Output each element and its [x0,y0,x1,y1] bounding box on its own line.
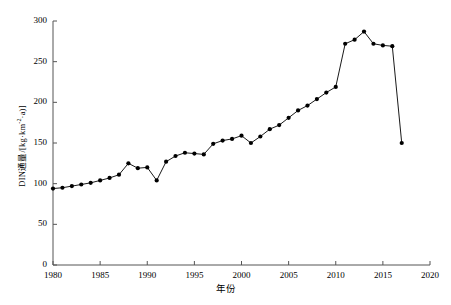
data-point [202,152,206,156]
data-point [305,103,309,107]
y-tick-label: 0 [43,259,48,269]
x-tick-label: 1985 [80,270,120,280]
data-point [287,116,291,120]
x-tick-label: 1980 [33,270,73,280]
data-point [70,184,74,188]
data-point [315,97,319,101]
data-point [353,38,357,42]
data-point [192,151,196,155]
data-point [249,141,253,145]
x-tick-label: 2015 [363,270,403,280]
y-tick-label: 150 [34,137,48,147]
data-point [126,161,130,165]
data-point [221,138,225,142]
data-point [381,43,385,47]
y-tick-label: 250 [34,56,48,66]
data-point [343,42,347,46]
y-tick-label: 300 [34,15,48,25]
data-point [324,90,328,94]
chart-svg [0,0,451,305]
data-point [107,176,111,180]
data-point [98,178,102,182]
x-tick-label: 1995 [174,270,214,280]
x-tick-label: 2000 [222,270,262,280]
data-point [400,141,404,145]
data-point [334,85,338,89]
data-point [390,44,394,48]
data-point [230,137,234,141]
y-axis-ticks [53,21,57,265]
chart-figure: DIN通量/[kg·km-2·a)] 年份 050100150200250300… [0,0,451,305]
axes-frame [53,21,430,265]
data-point [239,134,243,138]
x-tick-label: 2010 [316,270,356,280]
data-point [296,108,300,112]
data-point [136,166,140,170]
data-point [155,178,159,182]
x-axis-ticks [53,261,430,265]
x-tick-label: 2005 [269,270,309,280]
data-point [164,160,168,164]
data-point [79,182,83,186]
data-point-markers [51,29,404,190]
data-line [53,32,402,189]
data-point [145,165,149,169]
data-point [117,173,121,177]
data-point [277,123,281,127]
data-point [258,134,262,138]
data-point [268,127,272,131]
data-point [173,154,177,158]
data-point [183,151,187,155]
data-point [89,181,93,185]
data-point [362,29,366,33]
data-point [371,42,375,46]
y-tick-label: 200 [34,96,48,106]
x-tick-label: 1990 [127,270,167,280]
data-point [51,186,55,190]
y-tick-label: 100 [34,178,48,188]
x-tick-label: 2020 [410,270,450,280]
y-tick-label: 50 [38,218,47,228]
data-point [211,142,215,146]
data-point [60,186,64,190]
